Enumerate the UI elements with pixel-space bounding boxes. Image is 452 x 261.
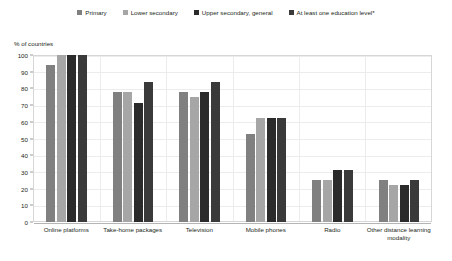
bar-group: [33, 55, 100, 222]
chart-page: PrimaryLower secondaryUpper secondary, g…: [0, 0, 452, 261]
bar[interactable]: [78, 55, 87, 222]
bar[interactable]: [256, 118, 265, 222]
bar[interactable]: [211, 82, 220, 222]
bar[interactable]: [46, 65, 55, 222]
bar[interactable]: [312, 180, 321, 222]
y-axis-title: % of countries: [14, 40, 53, 47]
chart-legend: PrimaryLower secondaryUpper secondary, g…: [0, 9, 452, 16]
plot-area: [33, 55, 432, 222]
y-tick-label: 70: [21, 102, 28, 109]
legend-swatch-icon: [123, 10, 128, 15]
legend-item[interactable]: Lower secondary: [123, 9, 178, 16]
legend-label: Primary: [85, 9, 106, 16]
bar[interactable]: [277, 118, 286, 222]
y-tick-label: 60: [21, 118, 28, 125]
bar[interactable]: [344, 170, 353, 222]
y-tick-label: 30: [21, 168, 28, 175]
y-axis-ticks: 1009080706050403020100: [0, 55, 33, 222]
bar[interactable]: [57, 55, 66, 222]
legend-swatch-icon: [194, 10, 199, 15]
bar[interactable]: [323, 180, 332, 222]
gridline: [34, 223, 431, 224]
y-tick-label: 20: [21, 185, 28, 192]
x-axis-label: Take-home packages: [100, 226, 167, 241]
bar[interactable]: [179, 92, 188, 222]
legend-swatch-icon: [77, 10, 82, 15]
x-axis-labels: Online platformsTake-home packagesTelevi…: [33, 226, 432, 241]
bar[interactable]: [200, 92, 209, 222]
legend-swatch-icon: [289, 10, 294, 15]
bar[interactable]: [400, 185, 409, 222]
bar[interactable]: [379, 180, 388, 222]
y-tick-label: 90: [21, 68, 28, 75]
legend-item[interactable]: Primary: [77, 9, 106, 16]
bar-group: [366, 55, 433, 222]
bar[interactable]: [144, 82, 153, 222]
bar[interactable]: [123, 92, 132, 222]
x-axis-label: Radio: [299, 226, 366, 241]
x-axis-label: Other distance learning modality: [366, 226, 433, 241]
bar[interactable]: [190, 97, 199, 222]
y-tick-label: 0: [25, 219, 28, 226]
bar[interactable]: [333, 170, 342, 222]
y-tick-label: 10: [21, 202, 28, 209]
bar[interactable]: [267, 118, 276, 222]
x-axis-label: Online platforms: [33, 226, 100, 241]
bar[interactable]: [410, 180, 419, 222]
legend-label: At least one education level*: [297, 9, 375, 16]
y-tick-label: 80: [21, 85, 28, 92]
bar-group: [100, 55, 167, 222]
bar[interactable]: [113, 92, 122, 222]
legend-label: Upper secondary, general: [202, 9, 273, 16]
x-axis-label: Mobile phones: [233, 226, 300, 241]
bar-group: [299, 55, 366, 222]
x-axis-label: Television: [166, 226, 233, 241]
legend-item[interactable]: Upper secondary, general: [194, 9, 273, 16]
bar-groups: [33, 55, 432, 222]
y-tick-label: 100: [18, 52, 28, 59]
legend-label: Lower secondary: [131, 9, 178, 16]
y-tick-label: 50: [21, 135, 28, 142]
bar[interactable]: [246, 134, 255, 223]
y-tick-label: 40: [21, 152, 28, 159]
bar[interactable]: [67, 55, 76, 222]
bar-group: [166, 55, 233, 222]
bar[interactable]: [134, 103, 143, 222]
bar-group: [233, 55, 300, 222]
bar[interactable]: [389, 185, 398, 222]
legend-item[interactable]: At least one education level*: [289, 9, 375, 16]
